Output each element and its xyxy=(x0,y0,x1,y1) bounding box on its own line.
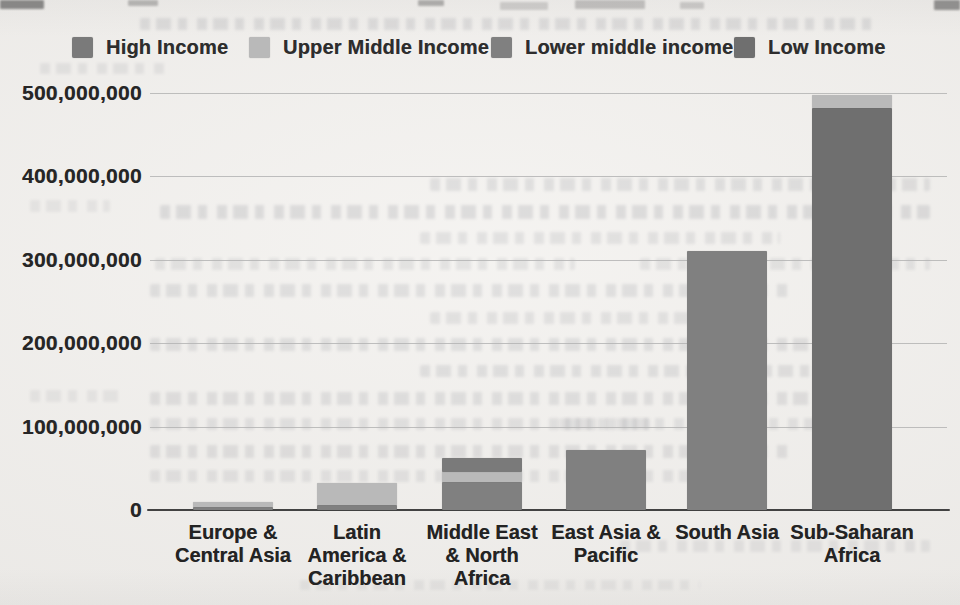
legend-swatch xyxy=(491,37,512,58)
y-tick-label: 100,000,000 xyxy=(18,415,142,439)
legend-label: Upper Middle Income xyxy=(283,36,489,59)
bar-segment xyxy=(193,507,273,510)
bar-segment xyxy=(687,251,767,510)
bar-segment xyxy=(317,505,397,510)
y-tick-label: 0 xyxy=(18,498,142,522)
legend-label: High Income xyxy=(106,36,228,59)
scanned-book-page: High IncomeUpper Middle IncomeLower midd… xyxy=(0,0,960,605)
legend-item: High Income xyxy=(72,36,228,58)
bar-segment xyxy=(812,95,892,108)
y-tick-label: 300,000,000 xyxy=(18,248,142,272)
legend-label: Low Income xyxy=(768,36,886,59)
bar-segment xyxy=(193,502,273,508)
y-tick-label: 200,000,000 xyxy=(18,331,142,355)
legend-swatch xyxy=(249,37,270,58)
legend-swatch xyxy=(734,37,755,58)
legend-item: Upper Middle Income xyxy=(249,36,489,58)
bar-segment xyxy=(442,472,522,482)
bar-segment xyxy=(566,450,646,510)
legend-label: Lower middle income xyxy=(525,36,733,59)
bar-segment xyxy=(812,108,892,510)
bar-segment xyxy=(317,483,397,505)
legend-item: Low Income xyxy=(734,36,886,58)
y-tick-label: 400,000,000 xyxy=(18,164,142,188)
stacked-bar-chart: High IncomeUpper Middle IncomeLower midd… xyxy=(0,0,960,605)
bar-segment xyxy=(442,482,522,510)
bar-segment xyxy=(442,458,522,471)
y-tick-label: 500,000,000 xyxy=(18,81,142,105)
grid-line xyxy=(150,93,947,94)
legend-item: Lower middle income xyxy=(491,36,733,58)
legend-swatch xyxy=(72,37,93,58)
x-category-label: Sub-Saharan Africa xyxy=(777,521,927,567)
